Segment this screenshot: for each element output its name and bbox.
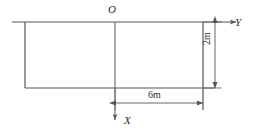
vertical-dimension-label: 2m	[202, 32, 212, 45]
horizontal-dimension-label: 6m	[148, 90, 161, 100]
y-axis-label: Y	[235, 17, 241, 28]
coordinate-diagram: O Y X 6m 2m	[0, 0, 253, 140]
origin-label: O	[108, 4, 116, 15]
x-axis-label: X	[124, 115, 131, 126]
